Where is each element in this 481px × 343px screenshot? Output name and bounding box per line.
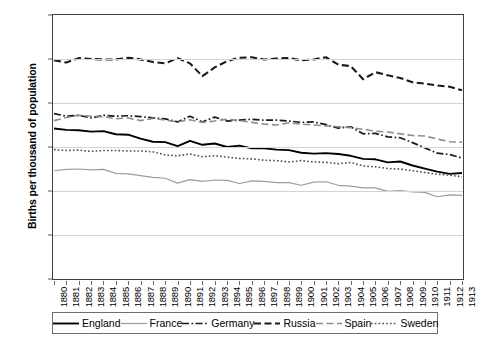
x-axis-tick-label: 1891 <box>194 287 205 307</box>
x-axis-tick-mark <box>116 281 117 285</box>
x-axis-tick-mark <box>66 281 67 285</box>
x-axis-tick-mark <box>141 281 142 285</box>
legend-label: Germany <box>211 317 254 329</box>
x-axis-tick-label: 1886 <box>132 287 143 307</box>
x-axis-tick-mark <box>91 281 92 285</box>
x-axis-tick-mark <box>425 281 426 285</box>
x-axis-tick-label: 1910 <box>429 287 440 307</box>
x-axis-tick-label: 1890 <box>182 287 193 307</box>
gridline <box>53 103 463 104</box>
x-axis-tick-label: 1899 <box>293 287 304 307</box>
x-axis-tick-label: 1895 <box>243 287 254 307</box>
legend-swatch-france-icon <box>121 319 147 328</box>
x-axis-tick-mark <box>450 281 451 285</box>
x-axis-tick-label: 1883 <box>95 287 106 307</box>
legend-item-spain[interactable]: Spain <box>316 317 372 329</box>
x-axis-tick-mark <box>277 281 278 285</box>
legend-label: England <box>82 317 121 329</box>
legend-item-sweden[interactable]: Sweden <box>371 317 438 329</box>
x-axis-tick-mark <box>462 281 463 285</box>
x-axis-tick-mark <box>165 281 166 285</box>
legend-label: Russia <box>283 317 315 329</box>
x-axis-tick-mark <box>437 281 438 285</box>
x-axis-tick-label: 1909 <box>417 287 428 307</box>
x-axis-tick-mark <box>413 281 414 285</box>
x-axis-tick-mark <box>301 281 302 285</box>
x-axis-tick-mark <box>363 281 364 285</box>
x-axis-tick-label: 1881 <box>70 287 81 307</box>
x-axis-tick-label: 1907 <box>392 287 403 307</box>
legend-label: Sweden <box>400 317 438 329</box>
x-axis-tick-mark <box>338 281 339 285</box>
x-axis-tick-mark <box>289 281 290 285</box>
x-axis-tick-label: 1913 <box>466 287 477 307</box>
x-axis-tick-mark <box>54 281 55 285</box>
legend-swatch-spain-icon <box>316 319 342 328</box>
legend: EnglandFranceGermanyRussiaSpainSweden <box>52 312 438 334</box>
x-axis-tick-mark <box>79 281 80 285</box>
x-axis-tick-mark <box>227 281 228 285</box>
x-axis-tick-mark <box>351 281 352 285</box>
x-axis-tick-label: 1911 <box>441 287 452 307</box>
x-axis-tick-mark <box>252 281 253 285</box>
series-line-russia <box>54 57 462 90</box>
x-axis-tick-label: 1882 <box>83 287 94 307</box>
x-axis-tick-mark <box>153 281 154 285</box>
x-axis-tick-label: 1894 <box>231 287 242 307</box>
x-axis-tick-label: 1885 <box>120 287 131 307</box>
x-axis-tick-label: 1889 <box>169 287 180 307</box>
legend-item-russia[interactable]: Russia <box>254 317 315 329</box>
legend-swatch-russia-icon <box>254 319 280 328</box>
x-axis-tick-label: 1900 <box>305 287 316 307</box>
x-axis-tick-label: 1903 <box>342 287 353 307</box>
x-axis-tick-mark <box>190 281 191 285</box>
x-axis-tick-mark <box>400 281 401 285</box>
x-axis-tick-label: 1905 <box>367 287 378 307</box>
x-axis-tick-label: 1888 <box>157 287 168 307</box>
legend-swatch-germany-icon <box>182 319 208 328</box>
x-axis-tick-label: 1896 <box>256 287 267 307</box>
legend-label: Spain <box>345 317 372 329</box>
y-axis-title: Births per thousand of population <box>26 26 38 266</box>
x-axis-tick-mark <box>178 281 179 285</box>
x-axis-tick-label: 1908 <box>404 287 415 307</box>
gridline <box>53 59 463 60</box>
x-axis-tick-label: 1887 <box>145 287 156 307</box>
legend-item-germany[interactable]: Germany <box>182 317 254 329</box>
legend-swatch-sweden-icon <box>371 319 397 328</box>
x-axis-tick-label: 1906 <box>379 287 390 307</box>
legend-label: France <box>150 317 183 329</box>
x-axis-tick-mark <box>128 281 129 285</box>
series-line-france <box>54 169 462 197</box>
x-axis-tick-label: 1901 <box>318 287 329 307</box>
x-axis-tick-mark <box>388 281 389 285</box>
gridline <box>53 191 463 192</box>
x-axis-tick-mark <box>264 281 265 285</box>
x-axis-tick-label: 1880 <box>58 287 69 307</box>
x-axis-tick-label: 1912 <box>454 287 465 307</box>
x-axis-tick-mark <box>326 281 327 285</box>
births-per-thousand-line-chart: Births per thousand of population 010203… <box>0 0 481 343</box>
x-axis-tick-mark <box>314 281 315 285</box>
x-axis-tick-mark <box>375 281 376 285</box>
legend-swatch-england-icon <box>53 319 79 328</box>
gridline <box>53 235 463 236</box>
plot-area <box>52 14 464 280</box>
x-axis-tick-label: 1892 <box>206 287 217 307</box>
x-axis-tick-label: 1893 <box>219 287 230 307</box>
x-axis-tick-mark <box>202 281 203 285</box>
legend-item-france[interactable]: France <box>121 317 183 329</box>
x-axis-tick-label: 1897 <box>268 287 279 307</box>
x-axis-tick-label: 1898 <box>281 287 292 307</box>
x-axis-tick-label: 1884 <box>107 287 118 307</box>
x-axis-tick-label: 1902 <box>330 287 341 307</box>
x-axis-tick-mark <box>239 281 240 285</box>
series-line-germany <box>54 114 462 158</box>
x-axis-tick-mark <box>103 281 104 285</box>
gridline <box>53 147 463 148</box>
legend-item-england[interactable]: England <box>53 317 121 329</box>
x-axis-tick-label: 1904 <box>355 287 366 307</box>
x-axis-tick-mark <box>215 281 216 285</box>
